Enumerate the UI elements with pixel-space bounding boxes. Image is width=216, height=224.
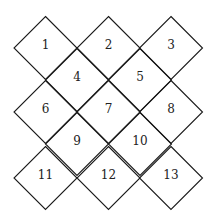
diamond-cell-13: 13 — [140, 147, 203, 210]
diamond-cell-1: 1 — [14, 17, 77, 80]
cell-label: 3 — [167, 38, 175, 52]
cell-label: 12 — [101, 168, 116, 182]
diamond-cell-9: 9 — [46, 113, 109, 176]
diamond-cell-2: 2 — [77, 17, 140, 80]
diamond-cell-6: 6 — [14, 81, 77, 144]
diamond-cell-5: 5 — [109, 49, 172, 112]
cell-label: 6 — [42, 102, 50, 116]
diamond-cell-12: 12 — [77, 147, 140, 210]
diamond-cell-3: 3 — [140, 17, 203, 80]
cell-label: 13 — [163, 168, 178, 182]
cell-label: 10 — [132, 134, 147, 148]
cell-label: 9 — [73, 134, 81, 148]
diamond-cell-11: 11 — [14, 147, 77, 210]
diamond-cell-8: 8 — [140, 81, 203, 144]
cell-label: 2 — [105, 38, 113, 52]
diamond-cell-7: 7 — [77, 81, 140, 144]
cell-label: 1 — [42, 38, 50, 52]
cell-label: 5 — [136, 70, 144, 84]
cell-label: 7 — [105, 102, 113, 116]
cell-label: 11 — [38, 168, 53, 182]
diamond-cell-10: 10 — [109, 113, 172, 176]
cell-label: 4 — [73, 70, 81, 84]
diamond-lattice-diagram: 12345678910111213 — [0, 0, 216, 224]
cell-label: 8 — [167, 102, 175, 116]
diamond-cell-4: 4 — [46, 49, 109, 112]
